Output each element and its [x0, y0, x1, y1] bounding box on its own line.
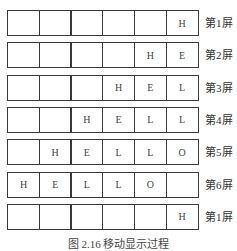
display-cell — [102, 204, 135, 230]
display-cell — [102, 10, 135, 36]
screen-row: HELLO — [7, 139, 199, 165]
screen-label: 第6屏 — [205, 172, 233, 198]
screen-label: 第1屏 — [205, 204, 233, 230]
screen-row: H — [7, 10, 199, 36]
screen-row: HELLO — [7, 172, 199, 198]
display-cell: H — [102, 75, 135, 101]
display-cell: L — [134, 107, 167, 133]
screen-label: 第4屏 — [205, 107, 233, 133]
display-cell: E — [166, 42, 199, 68]
display-cell: L — [70, 172, 103, 198]
display-cell: H — [134, 42, 167, 68]
display-cell — [134, 204, 167, 230]
display-cell — [7, 107, 40, 133]
display-cell: H — [166, 204, 199, 230]
display-cell — [7, 204, 40, 230]
display-cell — [7, 10, 40, 36]
display-cell — [7, 42, 40, 68]
display-cell: H — [166, 10, 199, 36]
display-cell: E — [70, 139, 103, 165]
screen-row: HELL — [7, 107, 199, 133]
display-cell — [70, 204, 103, 230]
display-cell — [70, 75, 103, 101]
display-cell — [39, 75, 72, 101]
display-cell — [70, 42, 103, 68]
display-cell — [7, 75, 40, 101]
screen-label: 第2屏 — [205, 42, 233, 68]
screen-row: HE — [7, 42, 199, 68]
display-cell: O — [134, 172, 167, 198]
display-cell: L — [134, 139, 167, 165]
display-cell: E — [102, 107, 135, 133]
display-cell: E — [134, 75, 167, 101]
display-cell — [39, 42, 72, 68]
display-cell: H — [70, 107, 103, 133]
figure-caption: 图 2.16 移动显示过程 — [0, 235, 237, 251]
screen-row: HEL — [7, 75, 199, 101]
display-cell — [166, 172, 199, 198]
screen-row: H — [7, 204, 199, 230]
display-cell: L — [166, 107, 199, 133]
screen-label: 第5屏 — [205, 139, 233, 165]
display-cell: H — [39, 139, 72, 165]
screen-label: 第1屏 — [205, 10, 233, 36]
display-cell: O — [166, 139, 199, 165]
display-cell: E — [39, 172, 72, 198]
display-cell — [39, 10, 72, 36]
display-cell: L — [102, 172, 135, 198]
display-cell — [39, 204, 72, 230]
display-cell — [7, 139, 40, 165]
display-cell: L — [102, 139, 135, 165]
display-cell: L — [166, 75, 199, 101]
display-cell — [70, 10, 103, 36]
display-cell — [39, 107, 72, 133]
display-cell: H — [7, 172, 40, 198]
display-cell — [134, 10, 167, 36]
screen-label: 第3屏 — [205, 75, 233, 101]
display-cell — [102, 42, 135, 68]
